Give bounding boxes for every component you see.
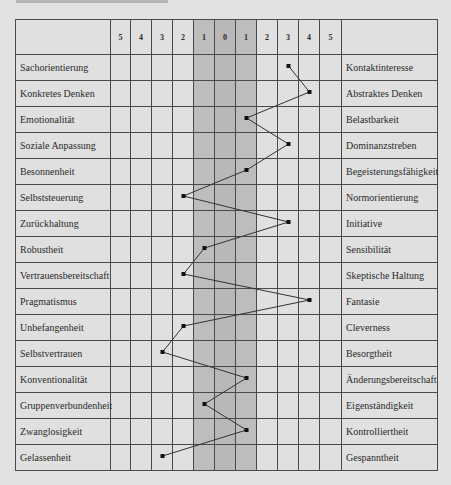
scale-cell <box>236 159 257 185</box>
trait-right-label: Besorgtheit <box>342 341 438 367</box>
scale-cell <box>215 419 236 445</box>
scale-cell <box>111 133 131 159</box>
scale-cell <box>152 81 173 107</box>
scale-cell <box>194 211 215 237</box>
scale-cell <box>215 237 236 263</box>
scale-cell <box>111 315 131 341</box>
trait-right-label: Kontaktinteresse <box>342 55 438 81</box>
scale-cell <box>194 55 215 81</box>
scale-cell <box>131 55 152 81</box>
scale-cell <box>320 133 342 159</box>
scale-cell <box>173 185 194 211</box>
trait-left-label: Konkretes Denken <box>16 81 111 107</box>
trait-row: KonventionalitätÄnderungsbereitschaft <box>16 367 438 393</box>
trait-row: GruppenverbundenheitEigenständigkeit <box>16 393 438 419</box>
scale-cell <box>278 367 299 393</box>
scale-cell <box>111 289 131 315</box>
scale-cell <box>278 263 299 289</box>
scale-cell <box>194 393 215 419</box>
trait-left-label: Soziale Anpassung <box>16 133 111 159</box>
personality-profile-chart: 54321012345SachorientierungKontaktintere… <box>15 19 437 469</box>
scale-cell <box>320 315 342 341</box>
scale-cell <box>215 211 236 237</box>
scale-cell <box>278 55 299 81</box>
scale-cell <box>215 289 236 315</box>
trait-right-label: Cleverness <box>342 315 438 341</box>
scale-cell <box>236 81 257 107</box>
trait-left-label: Besonnenheit <box>16 159 111 185</box>
scale-cell <box>299 159 320 185</box>
scale-cell <box>173 341 194 367</box>
scale-tick-label: 0 <box>215 20 236 55</box>
scale-cell <box>111 237 131 263</box>
scale-cell <box>299 81 320 107</box>
scale-cell <box>320 445 342 471</box>
scale-tick-label: 2 <box>257 20 278 55</box>
scale-cell <box>320 419 342 445</box>
scale-cell <box>194 159 215 185</box>
trait-right-label: Begeisterungsfähigkeit <box>342 159 438 185</box>
scale-cell <box>194 81 215 107</box>
scale-cell <box>278 107 299 133</box>
scale-cell <box>194 263 215 289</box>
scale-cell <box>131 159 152 185</box>
scale-cell <box>131 107 152 133</box>
scale-cell <box>257 263 278 289</box>
scale-cell <box>257 185 278 211</box>
trait-row: PragmatismusFantasie <box>16 289 438 315</box>
scale-tick-label: 4 <box>299 20 320 55</box>
scale-cell <box>131 237 152 263</box>
scale-cell <box>111 367 131 393</box>
scale-tick-label: 1 <box>236 20 257 55</box>
trait-left-label: Vertrauensbereitschaft <box>16 263 111 289</box>
trait-row: GelassenheitGespanntheit <box>16 445 438 471</box>
trait-left-label: Selbststeuerung <box>16 185 111 211</box>
trait-row: BesonnenheitBegeisterungsfähigkeit <box>16 159 438 185</box>
scale-cell <box>173 315 194 341</box>
scale-cell <box>320 185 342 211</box>
scale-cell <box>236 367 257 393</box>
scale-cell <box>131 81 152 107</box>
scale-cell <box>257 315 278 341</box>
scale-cell <box>236 211 257 237</box>
scale-cell <box>194 237 215 263</box>
scale-cell <box>257 419 278 445</box>
scale-tick-label: 1 <box>194 20 215 55</box>
trait-row: EmotionalitätBelastbarkeit <box>16 107 438 133</box>
trait-left-label: Zwanglosigkeit <box>16 419 111 445</box>
scale-cell <box>236 393 257 419</box>
scale-cell <box>299 263 320 289</box>
trait-left-label: Selbstvertrauen <box>16 341 111 367</box>
scale-cell <box>257 133 278 159</box>
scale-tick-label: 4 <box>131 20 152 55</box>
scale-cell <box>131 185 152 211</box>
scale-cell <box>194 107 215 133</box>
scale-cell <box>173 81 194 107</box>
scale-cell <box>320 289 342 315</box>
scale-tick-label: 3 <box>278 20 299 55</box>
scale-cell <box>299 289 320 315</box>
scale-cell <box>278 81 299 107</box>
header-left-blank <box>16 20 111 55</box>
scale-cell <box>111 81 131 107</box>
scale-cell <box>111 159 131 185</box>
scale-cell <box>257 367 278 393</box>
scale-cell <box>299 341 320 367</box>
scale-cell <box>320 263 342 289</box>
scale-cell <box>299 211 320 237</box>
scale-cell <box>173 107 194 133</box>
scale-cell <box>278 393 299 419</box>
scale-cell <box>194 133 215 159</box>
scale-cell <box>236 341 257 367</box>
scale-header-row: 54321012345 <box>16 20 438 55</box>
scale-cell <box>236 55 257 81</box>
scale-cell <box>131 263 152 289</box>
scale-cell <box>131 289 152 315</box>
scale-cell <box>278 445 299 471</box>
trait-right-label: Änderungsbereitschaft <box>342 367 438 393</box>
scale-tick-label: 5 <box>320 20 342 55</box>
scale-cell <box>257 81 278 107</box>
scale-cell <box>152 445 173 471</box>
scale-cell <box>194 289 215 315</box>
scale-cell <box>215 315 236 341</box>
